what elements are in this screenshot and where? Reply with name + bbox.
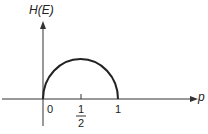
- entropy-curve: [43, 59, 118, 99]
- tick-label-0: 0: [47, 104, 53, 115]
- y-axis-label: H(E): [29, 4, 54, 16]
- y-arrow-icon: [40, 21, 46, 29]
- tick-label-1: 1: [115, 104, 121, 115]
- x-arrow-icon: [190, 96, 198, 102]
- tick-label-half-numerator: 1: [78, 104, 84, 115]
- x-axis-label: p: [198, 91, 205, 103]
- tick-label-half-denominator: 2: [78, 118, 84, 129]
- plot: [0, 0, 208, 134]
